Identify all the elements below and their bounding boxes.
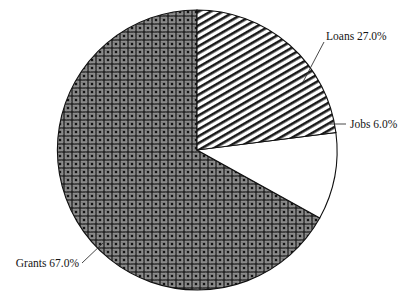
- pie-chart-canvas: Loans 27.0% Jobs 6.0% Grants 67.0%: [0, 0, 407, 300]
- pie-label-jobs: Jobs 6.0%: [350, 118, 398, 130]
- pie-label-grants: Grants 67.0%: [16, 257, 80, 269]
- pie-chart: Loans 27.0% Jobs 6.0% Grants 67.0%: [0, 0, 407, 300]
- pie-label-loans: Loans 27.0%: [326, 30, 387, 42]
